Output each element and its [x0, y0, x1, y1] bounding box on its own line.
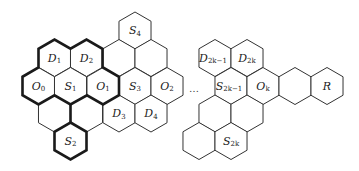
- ellipsis: …: [189, 83, 199, 94]
- hex-cell-r2c8: [279, 68, 311, 105]
- hexagon-grid-diagram: … S4D1D2D2k−1D2kO0S1O1S3O2S2k−1OkRD3D4S2…: [0, 0, 359, 171]
- hex-label-r: R: [322, 80, 331, 93]
